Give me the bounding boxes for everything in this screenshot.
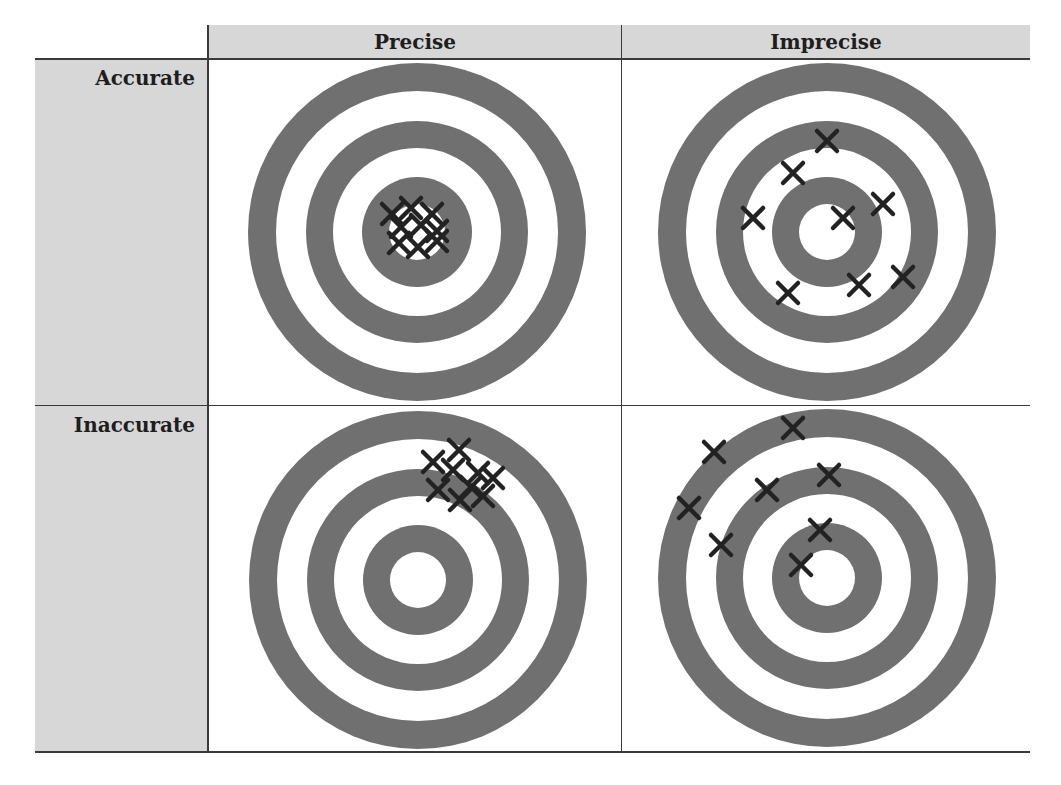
table-bottom-line	[35, 751, 1030, 753]
target-accurate-precise	[248, 63, 586, 401]
column-divider	[621, 25, 622, 753]
target-accurate-imprecise	[658, 63, 996, 401]
target-inaccurate-precise	[249, 411, 587, 749]
targets-canvas	[0, 0, 1061, 785]
row-divider-line	[35, 405, 1030, 406]
row-header-divider	[207, 25, 209, 753]
target-ring	[390, 552, 446, 608]
target-inaccurate-imprecise	[658, 409, 996, 747]
header-bottom-line	[35, 58, 1030, 60]
